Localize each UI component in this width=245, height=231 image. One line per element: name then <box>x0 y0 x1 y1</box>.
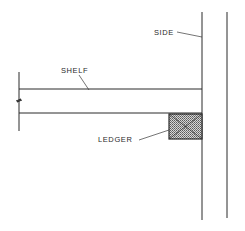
side-panel <box>202 12 227 220</box>
leader-side <box>177 32 202 37</box>
shelf-ledger-diagram: SIDE SHELF LEDGER <box>0 0 245 231</box>
ledger-block <box>169 114 202 139</box>
label-ledger-group: LEDGER <box>98 130 169 144</box>
break-symbol-icon <box>16 99 22 102</box>
label-shelf: SHELF <box>61 66 88 75</box>
label-side: SIDE <box>154 28 174 37</box>
label-ledger: LEDGER <box>98 135 132 144</box>
leader-shelf <box>79 75 89 90</box>
label-side-group: SIDE <box>154 28 202 37</box>
leader-ledger <box>139 130 169 140</box>
label-shelf-group: SHELF <box>61 66 89 90</box>
